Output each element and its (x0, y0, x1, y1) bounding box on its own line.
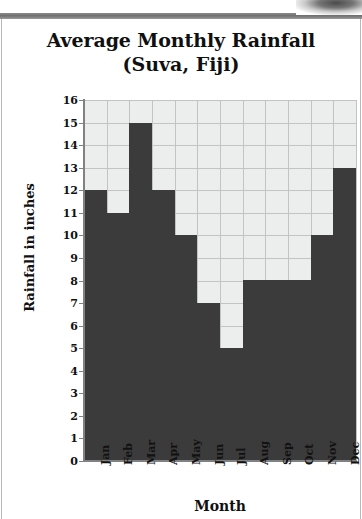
x-tick-label-oct: Oct (303, 435, 316, 465)
scan-corner-smudge-artifact (296, 0, 362, 15)
y-tick-label-13: 13 (46, 163, 78, 174)
x-tick-label-jan: Jan (99, 435, 112, 465)
x-axis-title: Month (84, 498, 356, 514)
gridline-vertical (356, 100, 357, 461)
bar-nov (311, 235, 333, 461)
y-tick-label-10: 10 (46, 230, 78, 241)
y-tick-label-2: 2 (46, 411, 78, 422)
x-tick-label-dec: Dec (349, 435, 362, 465)
y-tick-label-5: 5 (46, 343, 78, 354)
y-tick-label-11: 11 (46, 208, 78, 219)
y-tick-label-0: 0 (46, 456, 78, 467)
y-tick-label-9: 9 (46, 253, 78, 264)
bar-apr (152, 190, 175, 461)
page-border-left (1, 19, 2, 519)
x-tick-label-feb: Feb (122, 435, 135, 465)
bar-aug (243, 280, 265, 461)
y-tick-label-14: 14 (46, 140, 78, 151)
x-tick-label-may: May (190, 435, 203, 465)
y-tick-label-15: 15 (46, 118, 78, 129)
x-tick-label-jul: Jul (235, 435, 248, 465)
chart-title: Average Monthly Rainfall (0, 28, 362, 52)
bar-oct (288, 280, 311, 461)
y-axis-line (83, 99, 85, 462)
bar-may (175, 235, 197, 461)
chart-subtitle: (Suva, Fiji) (0, 52, 362, 76)
y-axis-title: Rainfall in inches (22, 168, 37, 328)
x-tick-label-nov: Nov (326, 435, 339, 465)
bar-dec (333, 168, 356, 461)
x-tick-label-sep: Sep (281, 435, 294, 465)
bar-jan (84, 190, 107, 461)
x-tick-label-jun: Jun (213, 435, 226, 465)
x-tick-label-mar: Mar (145, 435, 158, 465)
x-tick-label-aug: Aug (258, 435, 271, 465)
y-tick-label-8: 8 (46, 276, 78, 287)
bar-feb (107, 213, 129, 461)
bar-mar (129, 123, 152, 461)
bar-series (84, 100, 356, 461)
y-tick-label-12: 12 (46, 185, 78, 196)
x-tick-label-apr: Apr (167, 435, 180, 465)
y-tick-label-1: 1 (46, 433, 78, 444)
y-tick-label-3: 3 (46, 388, 78, 399)
y-tick-label-16: 16 (46, 95, 78, 106)
y-tick-label-4: 4 (46, 366, 78, 377)
y-tick-label-6: 6 (46, 321, 78, 332)
y-tick-label-7: 7 (46, 298, 78, 309)
bar-sep (265, 280, 288, 461)
plot-area (84, 100, 356, 461)
